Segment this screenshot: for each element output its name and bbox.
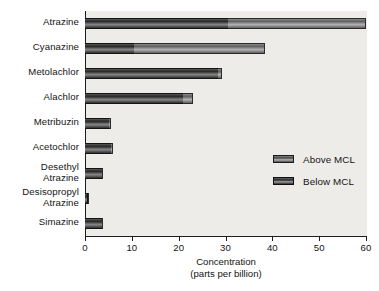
x-tick-label-50: 50 — [314, 242, 325, 253]
bar-segment-above-mcl — [218, 68, 221, 79]
legend-swatch-above-mcl-icon — [273, 155, 294, 163]
bar-metribuzin — [85, 118, 111, 129]
legend-label-below-mcl: Below MCL — [303, 176, 354, 187]
bar-alachlor — [85, 93, 193, 104]
bar-atrazine — [85, 18, 366, 29]
bar-acetochlor — [85, 143, 113, 154]
y-axis-label-line: Cyanazine — [0, 42, 79, 53]
x-tick-40 — [272, 236, 273, 241]
bar-segment-above-mcl — [88, 193, 89, 204]
chart-legend: Above MCL Below MCL — [273, 152, 355, 196]
y-axis-label-line: Simazine — [0, 217, 79, 228]
y-axis-label-metolachlor: Metolachlor — [0, 67, 79, 78]
y-axis-label-desethyl-atrazine: DesethylAtrazine — [0, 162, 79, 183]
y-axis-label-line: Metolachlor — [0, 67, 79, 78]
y-axis-label-acetochlor: Acetochlor — [0, 142, 79, 153]
y-axis-label-cyanazine: Cyanazine — [0, 42, 79, 53]
y-axis-label-simazine: Simazine — [0, 217, 79, 228]
bar-segment-below-mcl — [85, 118, 109, 129]
x-tick-label-10: 10 — [126, 242, 137, 253]
x-tick-60 — [366, 236, 367, 241]
x-tick-label-0: 0 — [82, 242, 87, 253]
bar-metolachlor — [85, 68, 222, 79]
bar-desethyl-atrazine — [85, 168, 103, 179]
bar-cyanazine — [85, 43, 265, 54]
x-tick-label-20: 20 — [173, 242, 184, 253]
x-tick-label-30: 30 — [220, 242, 231, 253]
x-axis-title: Concentration (parts per billion) — [85, 256, 367, 280]
y-axis-label-line: Alachlor — [0, 92, 79, 103]
bar-segment-below-mcl — [85, 218, 102, 229]
y-axis-label-line: Atrazine — [0, 17, 79, 28]
x-tick-label-40: 40 — [267, 242, 278, 253]
y-axis-label-metribuzin: Metribuzin — [0, 117, 79, 128]
bar-segment-above-mcl — [102, 218, 103, 229]
y-axis-label-line: Desethyl — [0, 162, 79, 173]
bar-segment-below-mcl — [85, 168, 102, 179]
y-axis-label-line: Metribuzin — [0, 117, 79, 128]
bar-desisopropyl-atrazine — [85, 193, 89, 204]
x-axis-title-line1: Concentration — [85, 256, 367, 268]
bar-segment-below-mcl — [85, 68, 218, 79]
bar-segment-below-mcl — [85, 143, 111, 154]
y-axis-label-alachlor: Alachlor — [0, 92, 79, 103]
y-axis-label-desisopropyl-atrazine: DesisopropylAtrazine — [0, 187, 79, 208]
x-tick-30 — [226, 236, 227, 241]
bar-segment-above-mcl — [228, 18, 366, 29]
bar-segment-above-mcl — [183, 93, 192, 104]
x-tick-50 — [319, 236, 320, 241]
bar-simazine — [85, 218, 103, 229]
bar-segment-above-mcl — [134, 43, 265, 54]
x-tick-0 — [85, 236, 86, 241]
bar-segment-above-mcl — [109, 118, 111, 129]
bar-segment-below-mcl — [85, 18, 228, 29]
x-axis-title-line2: (parts per billion) — [85, 268, 367, 280]
bar-chart-figure: AtrazineCyanazineMetolachlorAlachlorMetr… — [0, 0, 379, 291]
legend-swatch-below-mcl-icon — [273, 177, 294, 185]
y-axis-label-line: Atrazine — [0, 173, 79, 184]
x-tick-20 — [179, 236, 180, 241]
y-axis-label-line: Desisopropyl — [0, 187, 79, 198]
x-tick-10 — [132, 236, 133, 241]
y-axis-label-line: Atrazine — [0, 198, 79, 209]
y-axis-label-atrazine: Atrazine — [0, 17, 79, 28]
bar-segment-above-mcl — [102, 168, 103, 179]
bar-segment-above-mcl — [111, 143, 113, 154]
legend-item-above-mcl: Above MCL — [273, 152, 355, 166]
legend-item-below-mcl: Below MCL — [273, 174, 355, 188]
bar-segment-below-mcl — [85, 93, 183, 104]
x-tick-label-60: 60 — [361, 242, 372, 253]
y-axis-label-line: Acetochlor — [0, 142, 79, 153]
legend-label-above-mcl: Above MCL — [303, 154, 355, 165]
bar-segment-below-mcl — [85, 43, 134, 54]
